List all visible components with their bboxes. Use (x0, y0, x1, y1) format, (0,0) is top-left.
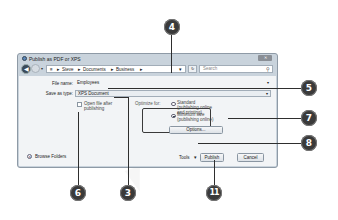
callout-11: 11 (206, 185, 222, 201)
expand-icon: ▾ (27, 154, 32, 159)
cancel-button[interactable]: Cancel (237, 153, 264, 162)
breadcrumb-business[interactable]: Business (116, 66, 134, 73)
callout-4-line (171, 35, 172, 73)
close-button[interactable]: ✕ (258, 55, 272, 61)
callout-6: 6 (70, 185, 86, 201)
publish-button[interactable]: Publish (200, 153, 224, 162)
search-input[interactable]: Search ⚲ (199, 65, 273, 73)
options-button[interactable]: Options... (169, 126, 223, 134)
callout-11-line (214, 160, 215, 185)
search-placeholder: Search (203, 66, 217, 71)
tools-dropdown-icon: ▾ (194, 155, 197, 160)
browse-folders-button[interactable]: ▾Browse Folders (27, 154, 66, 160)
callout-6-line (78, 112, 79, 185)
path-separator-icon[interactable]: ▸ (78, 66, 81, 73)
open-after-checkbox[interactable] (77, 102, 82, 107)
dialog-body: File name: Employees ▾ Save as type: XPS… (19, 76, 276, 166)
callout-8: 8 (301, 135, 317, 151)
address-bar[interactable]: ≡ ▸ Steve ▸ Documents ▸ Business ▸ ▾ (46, 65, 186, 73)
navigation-bar: ◀ ▾ ≡ ▸ Steve ▸ Documents ▸ Business ▸ ▾… (20, 64, 275, 75)
path-separator-icon[interactable]: ▸ (111, 66, 114, 73)
callout-4: 4 (164, 19, 180, 35)
callout-8-line (198, 143, 301, 144)
callout-3-line-h (114, 97, 128, 98)
optimize-minimum-radio[interactable] (171, 114, 176, 119)
callout-5-line (108, 88, 301, 89)
refresh-button[interactable]: ↻ (188, 65, 197, 73)
save-type-select[interactable]: XPS Document ▾ (75, 90, 271, 97)
title-bar: Publish as PDF or XPS ✕ (18, 54, 277, 64)
breadcrumb-steve[interactable]: Steve (62, 66, 74, 73)
file-name-label: File name: (29, 81, 73, 86)
back-arrow-icon: ◀ (24, 66, 29, 72)
save-type-label: Save as type: (23, 91, 73, 96)
file-name-value: Employees (77, 80, 99, 85)
dropdown-icon[interactable]: ▾ (267, 80, 269, 86)
forward-button[interactable] (31, 64, 40, 73)
app-icon (22, 56, 27, 61)
optimize-minimum-label[interactable]: Minimum size (publishing online) (177, 112, 219, 122)
path-separator-icon: ▸ (57, 66, 60, 73)
path-separator-icon[interactable]: ▸ (140, 66, 143, 73)
save-type-value: XPS Document (78, 91, 109, 96)
callout-3-line (128, 97, 129, 185)
browse-folders-label: Browse Folders (35, 154, 66, 159)
optimize-label: Optimize for: (135, 101, 171, 106)
tools-label: Tools (179, 155, 190, 160)
tools-menu[interactable]: Tools ▾ (179, 155, 197, 160)
callout-3: 3 (120, 185, 136, 201)
publish-dialog: Publish as PDF or XPS ✕ ◀ ▾ ≡ ▸ Steve ▸ … (17, 53, 278, 168)
callout-5: 5 (301, 80, 317, 96)
search-icon: ⚲ (266, 66, 270, 72)
optimize-standard-radio[interactable] (171, 102, 176, 107)
dropdown-icon[interactable]: ▾ (266, 91, 268, 97)
address-dropdown-icon[interactable]: ▾ (179, 66, 182, 73)
folder-icon: ≡ (50, 66, 53, 73)
dialog-title: Publish as PDF or XPS (29, 56, 81, 62)
breadcrumb-documents[interactable]: Documents (83, 66, 106, 73)
back-button[interactable]: ◀ (21, 64, 31, 74)
callout-7: 7 (301, 110, 317, 126)
callout-7-line (228, 118, 301, 119)
file-name-input[interactable]: Employees ▾ (75, 80, 271, 87)
recent-pages-dropdown[interactable]: ▾ (41, 66, 43, 71)
open-after-label[interactable]: Open file after publishing (84, 101, 124, 111)
